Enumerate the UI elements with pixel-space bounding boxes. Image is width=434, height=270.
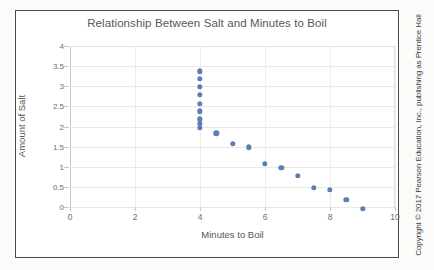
y-axis-tick-mark [64, 147, 69, 148]
x-axis-tick-label: 8 [328, 212, 333, 222]
y-axis-tick-label: 2.5 [53, 102, 64, 111]
y-axis-tick-mark [64, 86, 69, 87]
gridline-horizontal [70, 167, 395, 168]
x-axis-tick-mark [330, 207, 331, 211]
x-axis-title: Minutes to Boil [70, 229, 395, 240]
y-axis-tick-mark [64, 106, 69, 107]
scatter-point [197, 76, 202, 81]
scatter-point [197, 69, 202, 74]
y-axis-tick-label: 1.5 [53, 142, 64, 151]
x-axis-tick-label: 6 [263, 212, 268, 222]
x-axis-tick-label: 0 [68, 212, 73, 222]
scatter-point [246, 145, 251, 150]
gridline-horizontal [70, 46, 395, 47]
y-axis-tick-mark [64, 187, 69, 188]
plot-area [70, 46, 395, 207]
y-axis-tick-mark [64, 66, 69, 67]
scatter-point [214, 131, 219, 136]
gridline-vertical [135, 46, 136, 207]
x-axis-tick-label: 4 [198, 212, 203, 222]
scatter-point [295, 173, 300, 178]
gridline-vertical [330, 46, 331, 207]
scatter-point [197, 125, 202, 130]
y-axis-tick-mark [64, 167, 69, 168]
x-axis-tick-mark [265, 207, 266, 211]
y-axis-tick-label: 0.5 [53, 182, 64, 191]
gridline-horizontal [70, 127, 395, 128]
x-axis-tick-mark [200, 207, 201, 211]
gridline-horizontal [70, 66, 395, 67]
scatter-point [197, 92, 202, 97]
scatter-point [262, 161, 267, 166]
gridline-horizontal [70, 207, 395, 208]
scatter-point [197, 109, 202, 114]
gridline-vertical [395, 46, 396, 207]
scatter-point [279, 165, 284, 170]
gridline-horizontal [70, 106, 395, 107]
x-axis-tick-mark [70, 207, 71, 211]
x-axis-tick-mark [395, 207, 396, 211]
y-axis-tick-mark [64, 46, 69, 47]
scatter-point [311, 185, 316, 190]
gridline-vertical [265, 46, 266, 207]
x-axis-tick-label: 2 [133, 212, 138, 222]
gridline-horizontal [70, 86, 395, 87]
x-axis-tick-label: 10 [390, 212, 399, 222]
scatter-point [197, 84, 202, 89]
x-axis-tick-mark [135, 207, 136, 211]
y-axis-tick-label: 3.5 [53, 62, 64, 71]
gridline-horizontal [70, 147, 395, 148]
y-axis-tick-mark [64, 127, 69, 128]
y-axis-title: Amount of Salt [16, 95, 27, 157]
gridline-horizontal [70, 187, 395, 188]
scatter-point [327, 187, 332, 192]
scatter-point [344, 197, 349, 202]
y-axis-tick-labels: 00.511.522.533.54 [36, 0, 64, 270]
chart-title: Relationship Between Salt and Minutes to… [16, 17, 398, 29]
y-axis-tick-mark [64, 207, 69, 208]
copyright-notice: Copyright © 2017 Pearson Education, Inc.… [414, 14, 423, 255]
